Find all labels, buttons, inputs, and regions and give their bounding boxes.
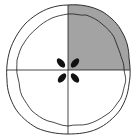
pie-fraction-diagram: 1/4 <box>0 0 134 136</box>
vent-icon <box>69 72 81 84</box>
pie-drawing <box>0 0 134 136</box>
vent-icon <box>55 57 67 69</box>
vent-icon <box>56 72 68 84</box>
